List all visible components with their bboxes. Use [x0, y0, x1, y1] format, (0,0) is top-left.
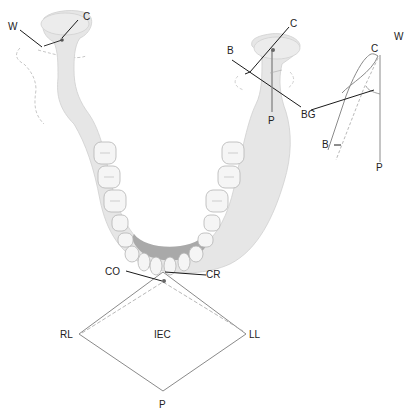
label-sagittal-w: W [394, 32, 403, 42]
label-ll: LL [249, 330, 260, 340]
label-envelope-p: P [159, 400, 166, 410]
mandible-diagram [0, 0, 413, 415]
label-iec: IEC [154, 330, 171, 340]
label-cr: CR [206, 270, 220, 280]
label-bg: BG [301, 110, 315, 120]
label-rl: RL [60, 330, 73, 340]
right-condyle-point [271, 48, 275, 52]
label-co: CO [105, 267, 120, 277]
label-sagittal-p: P [376, 163, 383, 173]
label-sagittal-b: B [322, 140, 329, 150]
left-condyle-head [41, 13, 89, 35]
label-left-w: W [8, 22, 17, 32]
label-right-b: B [227, 46, 234, 56]
label-left-c: C [83, 12, 90, 22]
left-condyle-point [60, 38, 64, 42]
label-right-c: C [290, 19, 297, 29]
label-sagittal-c: C [371, 44, 378, 54]
label-right-p: P [268, 116, 275, 126]
co-point [162, 279, 166, 283]
